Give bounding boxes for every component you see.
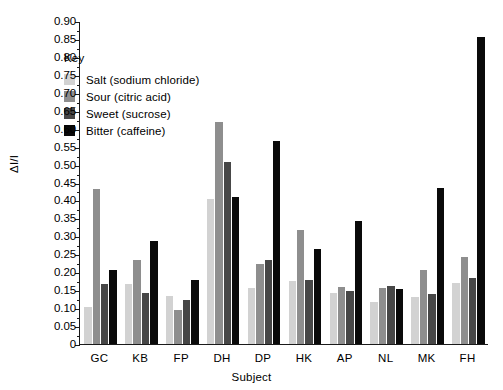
y-axis-tick-label: 0.45 (54, 178, 76, 190)
bar (256, 264, 263, 344)
y-axis-minor-tick (77, 336, 80, 337)
y-axis-tick-label: 0.75 (54, 70, 76, 82)
bar (125, 284, 132, 344)
legend-label-sour: Sour (citric acid) (86, 91, 171, 103)
y-axis-tick-label: 0.60 (54, 124, 76, 136)
y-axis-tick-label: 0.20 (54, 267, 76, 279)
bar (183, 300, 190, 345)
y-axis-tick-label: 0.30 (54, 231, 76, 243)
y-axis-minor-tick (77, 318, 80, 319)
x-axis-title: Subject (0, 371, 503, 383)
x-axis-group-label: AP (324, 352, 365, 364)
x-axis-group-label: GC (79, 352, 120, 364)
y-axis-minor-tick (77, 300, 80, 301)
x-axis-group-label: NL (365, 352, 406, 364)
legend-title: Key (64, 52, 199, 64)
legend-item: Bitter (caffeine) (64, 122, 199, 139)
y-axis-tick-label: 0.85 (54, 34, 76, 46)
bar (215, 122, 222, 344)
y-axis-tick-label: 0.40 (54, 195, 76, 207)
bar (330, 293, 337, 344)
y-axis-minor-tick (77, 282, 80, 283)
bar (133, 260, 140, 344)
y-axis-tick-label: 0.90 (54, 16, 76, 28)
bar (461, 257, 468, 344)
bar (338, 287, 345, 344)
y-axis-tick-label: 0.05 (54, 321, 76, 333)
legend-label-salt: Salt (sodium chloride) (86, 74, 199, 86)
x-axis-group-label: KB (120, 352, 161, 364)
y-axis-tick-label: 0.25 (54, 249, 76, 261)
x-axis-group-label: HK (284, 352, 325, 364)
bar (396, 289, 403, 344)
bar (248, 288, 255, 344)
y-axis-minor-tick (77, 192, 80, 193)
bar-chart: ΔI/I Subject Key Salt (sodium chloride) … (0, 0, 503, 390)
bar (273, 141, 280, 344)
legend-item: Sweet (sucrose) (64, 105, 199, 122)
y-axis-tick-label: 0.50 (54, 160, 76, 172)
bar (297, 230, 304, 344)
bar (387, 286, 394, 344)
bar (224, 162, 231, 344)
bar (289, 281, 296, 344)
x-axis-group-label: DH (202, 352, 243, 364)
bar (437, 188, 444, 344)
bar (428, 294, 435, 344)
y-axis-tick-label: 0.35 (54, 213, 76, 225)
bar (305, 280, 312, 344)
bar (174, 310, 181, 344)
y-axis-tick-label: 0.15 (54, 285, 76, 297)
x-axis-group-label: DP (243, 352, 284, 364)
bar (314, 249, 321, 344)
bar (142, 293, 149, 344)
legend-label-bitter: Bitter (caffeine) (86, 125, 165, 137)
bar (346, 291, 353, 344)
x-axis-group-label: MK (406, 352, 447, 364)
x-axis-group-label: FH (447, 352, 488, 364)
bar (420, 270, 427, 344)
bar (191, 280, 198, 344)
y-axis-minor-tick (77, 49, 80, 50)
bar (411, 297, 418, 344)
legend: Key Salt (sodium chloride) Sour (citric … (64, 52, 199, 139)
y-axis-tick-label: 0.55 (54, 142, 76, 154)
bar (265, 260, 272, 344)
bar (452, 283, 459, 344)
y-axis-minor-tick (77, 157, 80, 158)
legend-item: Sour (citric acid) (64, 88, 199, 105)
bar (469, 278, 476, 344)
bar (232, 197, 239, 344)
bar (93, 189, 100, 344)
bar (150, 241, 157, 344)
y-axis-minor-tick (77, 264, 80, 265)
y-axis-minor-tick (77, 31, 80, 32)
y-axis-title: ΔI/I (8, 155, 20, 173)
y-axis-tick-label: 0.80 (54, 52, 76, 64)
y-axis-minor-tick (77, 210, 80, 211)
bar (477, 37, 484, 344)
y-axis-tick-label: 0.65 (54, 106, 76, 118)
y-axis-minor-tick (77, 228, 80, 229)
bar (370, 302, 377, 344)
y-axis-tick-label: 0.70 (54, 88, 76, 100)
y-axis-minor-tick (77, 246, 80, 247)
bar (166, 296, 173, 344)
y-axis-minor-tick (77, 175, 80, 176)
bar (355, 221, 362, 344)
bar (379, 288, 386, 344)
x-axis-group-label: FP (161, 352, 202, 364)
bar (109, 270, 116, 344)
bar (207, 199, 214, 344)
bar (101, 284, 108, 344)
y-axis-tick-label: 0 (70, 339, 76, 351)
bar (84, 307, 91, 344)
legend-label-sweet: Sweet (sucrose) (86, 108, 171, 120)
y-axis-tick-label: 0.10 (54, 303, 76, 315)
legend-item: Salt (sodium chloride) (64, 71, 199, 88)
